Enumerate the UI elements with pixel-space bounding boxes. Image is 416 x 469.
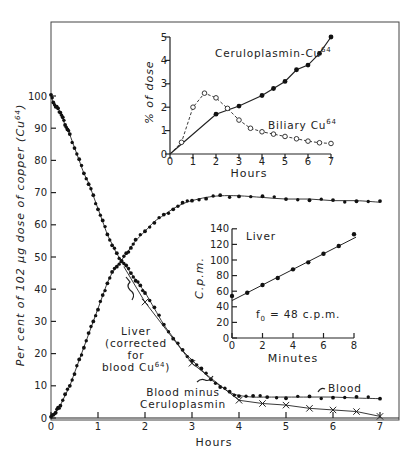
open-circle-marker [271,132,276,137]
dot-marker [308,395,312,399]
dot-marker [77,358,81,362]
dot-marker [228,196,231,199]
dot-marker [260,283,264,287]
x-tick-label: 7 [377,421,383,432]
y-tick-label: 80 [34,155,47,166]
y-tick-label: 2 [161,102,167,113]
dot-marker [331,396,335,400]
dot-marker [153,221,157,225]
x-tick-label: 0 [48,421,54,432]
svg-text:blood Cu64): blood Cu64) [102,361,170,373]
dot-marker [378,397,382,401]
dot-marker [197,198,200,201]
open-circle-marker [306,139,311,144]
dot-marker [321,252,325,256]
x-tick-label: 7 [328,156,334,167]
y-tick-label: 20 [34,348,47,359]
x-tick-label: 6 [305,156,311,167]
dot-marker [136,280,139,283]
open-circle-marker [329,141,334,146]
dot-marker [77,157,81,161]
dot-marker [378,199,382,203]
dot-marker [103,289,106,292]
dot-marker [141,289,144,292]
dot-marker [96,207,100,211]
dot-marker [211,194,214,197]
open-circle-marker [248,126,253,131]
dot-marker [62,119,65,122]
dot-marker [99,300,102,303]
svg-text:for: for [128,349,145,361]
dot-marker [129,271,133,275]
dot-marker [258,394,261,397]
dot-marker [110,270,114,274]
x-tick-label: 6 [320,340,326,351]
y-tick-label: 60 [216,286,229,297]
open-circle-marker [237,118,242,123]
dot-marker [68,384,72,388]
svg-text:Blood: Blood [328,382,362,394]
svg-text:Liver: Liver [121,325,151,337]
liver-inset-x-label: Minutes [268,352,318,365]
dot-marker [103,225,106,228]
open-circle-marker [179,140,184,145]
dot-marker [355,199,359,203]
dot-marker [75,152,78,155]
dot-marker [284,197,288,201]
inset-top-y-label: % of dose [143,60,156,123]
dot-marker [108,276,111,279]
dot-marker [108,238,111,241]
y-tick-label: 50 [34,252,47,263]
f0-annotation: f0 = 48 c.p.m. [256,308,340,323]
open-circle-marker [317,140,322,145]
dot-marker [113,267,116,270]
dot-marker [181,201,185,205]
dot-marker [132,275,135,278]
dot-marker [73,372,77,376]
blood-annotation: Blood [318,382,362,394]
y-tick-label: 80 [216,270,229,281]
x-tick-label: 5 [283,421,289,432]
dot-marker [113,247,116,250]
y-tick-label: 3 [161,78,167,89]
svg-text:(corrected: (corrected [105,337,167,349]
dot-marker [237,104,242,109]
dot-marker [352,232,356,236]
dot-marker [73,146,77,150]
x-tick-label: 1 [95,421,101,432]
x-tick-label: 2 [142,421,148,432]
x-tick-label: 8 [351,340,357,351]
dot-marker [148,299,151,302]
dot-marker [89,325,92,328]
y-tick-label: 70 [34,187,47,198]
dot-marker [162,213,166,217]
dot-marker [89,187,92,190]
svg-text:Blood minus: Blood minus [146,386,220,398]
dot-marker [60,114,63,117]
dot-marker [101,293,105,297]
dot-marker [167,212,170,215]
biliary-label: Biliary Cu64 [268,118,337,131]
dot-marker [343,396,346,399]
dot-marker [275,396,278,399]
dot-marker [66,388,69,391]
dot-marker [80,353,83,356]
dot-marker [68,132,72,136]
dot-marker [55,105,58,108]
dot-marker [65,126,68,129]
open-circle-marker [283,134,288,139]
dot-marker [99,213,102,216]
y-tick-label: 0 [41,413,47,424]
x-tick-label: 2 [259,340,265,351]
x-tick-label: 1 [190,156,196,167]
y-tick-label: 100 [210,255,229,266]
dot-marker [204,197,208,201]
dot-marker [329,35,334,40]
dot-marker [120,260,124,264]
x-tick-label: 3 [189,421,195,432]
dot-marker [127,267,130,270]
x-tick-label: 3 [236,156,242,167]
dot-marker [70,141,73,144]
dot-marker [91,320,95,324]
y-tick-label: 60 [34,219,47,230]
